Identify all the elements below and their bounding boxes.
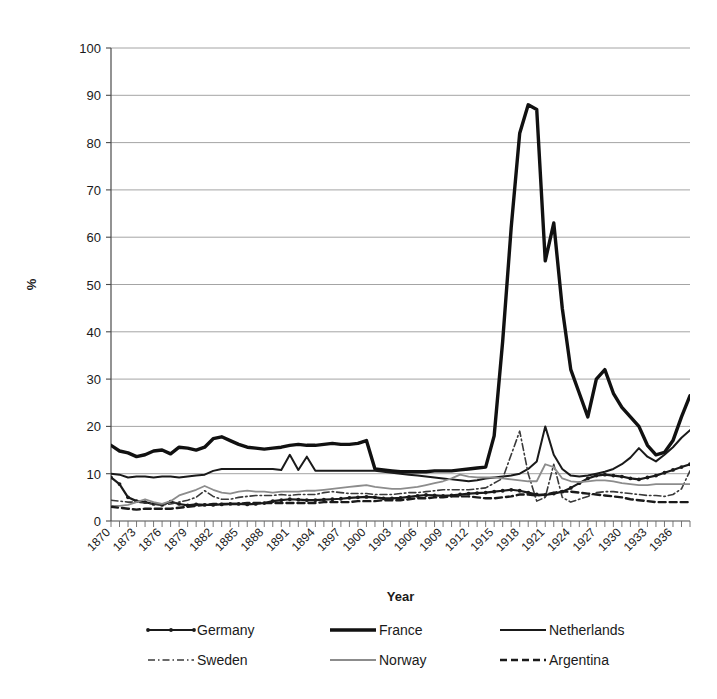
x-tick-label: 1894 <box>289 525 318 554</box>
x-tick-label-group: 1876 <box>135 525 164 554</box>
legend-label-argentina[interactable]: Argentina <box>549 652 609 668</box>
legend-label-sweden[interactable]: Sweden <box>197 652 248 668</box>
y-tick-label: 20 <box>87 419 101 434</box>
x-tick-label-group: 1894 <box>289 525 318 554</box>
y-tick-label: 10 <box>87 467 101 482</box>
series-marker-germany <box>339 497 343 501</box>
x-tick-label: 1870 <box>84 525 113 554</box>
series-marker-germany <box>518 489 522 493</box>
series-marker-germany <box>475 491 479 495</box>
series-marker-germany <box>279 498 283 502</box>
series-line-france <box>111 105 690 472</box>
x-tick-label: 1927 <box>570 525 599 554</box>
x-tick-label-group: 1888 <box>238 525 267 554</box>
x-tick-label-group: 1915 <box>468 525 497 554</box>
line-chart: 0102030405060708090100187018731876187918… <box>0 0 717 699</box>
y-tick-label: 50 <box>87 278 101 293</box>
x-tick-label-group: 1897 <box>314 525 343 554</box>
y-tick-label: 60 <box>87 230 101 245</box>
x-tick-label-group: 1918 <box>493 525 522 554</box>
x-tick-label: 1900 <box>340 525 369 554</box>
x-tick-label-group: 1873 <box>110 525 139 554</box>
x-tick-label: 1906 <box>391 525 420 554</box>
series-marker-germany <box>509 488 513 492</box>
series-marker-germany <box>637 477 641 481</box>
series-line-netherlands <box>111 426 690 481</box>
series-marker-germany <box>603 473 607 477</box>
y-tick-label: 70 <box>87 183 101 198</box>
series-marker-germany <box>424 493 428 497</box>
x-tick-label-group: 1909 <box>416 525 445 554</box>
x-tick-label-group: 1924 <box>544 525 573 554</box>
x-axis-title: Year <box>387 589 414 604</box>
y-tick-label: 30 <box>87 372 101 387</box>
series-marker-germany <box>654 474 658 478</box>
x-tick-label-group: 1921 <box>519 525 548 554</box>
y-tick-label: 40 <box>87 325 101 340</box>
legend-swatch-marker-germany <box>192 628 196 632</box>
x-tick-label-group: 1927 <box>570 525 599 554</box>
series-marker-germany <box>373 495 377 499</box>
series-marker-germany <box>688 462 692 466</box>
legend-swatch-marker-germany <box>169 628 173 632</box>
x-tick-label-group: 1870 <box>84 525 113 554</box>
y-tick-label: 100 <box>79 41 101 56</box>
x-tick-label: 1903 <box>365 525 394 554</box>
x-tick-label: 1897 <box>314 525 343 554</box>
series-marker-germany <box>628 477 632 481</box>
series-marker-germany <box>492 490 496 494</box>
series-marker-germany <box>484 491 488 495</box>
x-tick-label: 1912 <box>442 525 471 554</box>
x-tick-label-group: 1933 <box>621 525 650 554</box>
x-tick-label: 1933 <box>621 525 650 554</box>
x-tick-label-group: 1936 <box>646 525 675 554</box>
x-tick-label: 1879 <box>161 525 190 554</box>
y-tick-label: 90 <box>87 88 101 103</box>
legend-label-germany[interactable]: Germany <box>197 622 255 638</box>
x-tick-label: 1891 <box>263 525 292 554</box>
x-tick-label-group: 1912 <box>442 525 471 554</box>
x-tick-label: 1930 <box>595 525 624 554</box>
x-tick-label-group: 1882 <box>187 525 216 554</box>
y-tick-label: 80 <box>87 136 101 151</box>
x-tick-label: 1924 <box>544 525 573 554</box>
series-marker-germany <box>501 489 505 493</box>
series-marker-germany <box>620 475 624 479</box>
legend-label-netherlands[interactable]: Netherlands <box>549 622 625 638</box>
chart-figure: 0102030405060708090100187018731876187918… <box>0 0 717 699</box>
y-tick-label: 0 <box>94 514 101 529</box>
series-marker-germany <box>109 476 113 480</box>
legend: GermanyFranceNetherlandsSwedenNorwayArge… <box>146 622 624 668</box>
x-tick-label-group: 1879 <box>161 525 190 554</box>
y-axis-title-group: % <box>24 278 39 290</box>
x-tick-label: 1921 <box>519 525 548 554</box>
series-marker-germany <box>680 465 684 469</box>
series-marker-germany <box>118 482 122 486</box>
x-tick-label: 1918 <box>493 525 522 554</box>
series-marker-germany <box>467 492 471 496</box>
x-tick-label-group: 1891 <box>263 525 292 554</box>
series-marker-germany <box>126 495 130 499</box>
series-marker-germany <box>313 498 317 502</box>
x-tick-label: 1909 <box>416 525 445 554</box>
series-marker-germany <box>330 497 334 501</box>
legend-label-norway[interactable]: Norway <box>379 652 426 668</box>
x-tick-label: 1882 <box>187 525 216 554</box>
series-marker-germany <box>348 496 352 500</box>
x-tick-label-group: 1900 <box>340 525 369 554</box>
series-marker-germany <box>611 474 615 478</box>
x-tick-label: 1873 <box>110 525 139 554</box>
series-marker-germany <box>663 471 667 475</box>
series-line-sweden <box>111 431 690 505</box>
x-tick-label: 1915 <box>468 525 497 554</box>
y-axis-title: % <box>24 278 39 290</box>
series-marker-germany <box>296 498 300 502</box>
x-tick-label-group: 1930 <box>595 525 624 554</box>
x-tick-label-group: 1906 <box>391 525 420 554</box>
legend-label-france[interactable]: France <box>379 622 423 638</box>
x-tick-label-group: 1885 <box>212 525 241 554</box>
series-marker-germany <box>569 486 573 490</box>
x-tick-label: 1876 <box>135 525 164 554</box>
series-marker-germany <box>356 495 360 499</box>
series-marker-germany <box>646 476 650 480</box>
